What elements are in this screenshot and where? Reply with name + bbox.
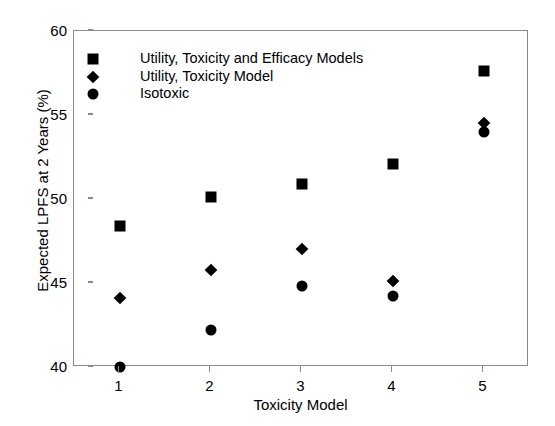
- legend-label: Utility, Toxicity Model: [140, 68, 273, 86]
- y-tick-mark: [88, 29, 93, 31]
- y-tick-mark: [88, 197, 93, 199]
- legend-label: Isotoxic: [140, 85, 189, 103]
- diamond-marker-icon: [86, 68, 100, 86]
- data-point: [478, 66, 489, 77]
- legend-marker: [88, 89, 99, 100]
- y-tick-label: 40: [27, 359, 67, 374]
- x-tick-label: 1: [99, 378, 139, 393]
- data-point: [113, 292, 126, 305]
- x-tick-label: 3: [281, 378, 321, 393]
- legend-label: Utility, Toxicity and Efficacy Models: [140, 50, 363, 68]
- x-tick-label: 5: [463, 378, 503, 393]
- y-tick-mark: [88, 365, 93, 367]
- x-tick-mark: [118, 366, 120, 372]
- data-point: [387, 158, 398, 169]
- y-axis-title: Expected LPFS at 2 Years (%): [34, 61, 51, 321]
- legend-entry: Utility, Toxicity Model: [86, 68, 416, 86]
- scatter-chart-figure: 4045505560 12345 Expected LPFS at 2 Year…: [0, 0, 555, 426]
- x-tick-mark: [209, 366, 211, 372]
- data-point: [296, 178, 307, 189]
- data-point: [295, 243, 308, 256]
- data-point: [205, 325, 216, 336]
- data-point: [387, 291, 398, 302]
- data-point: [296, 281, 307, 292]
- data-point: [204, 263, 217, 276]
- x-axis-title: Toxicity Model: [73, 396, 528, 413]
- circle-marker-icon: [86, 85, 100, 103]
- data-point: [114, 220, 125, 231]
- square-marker-icon: [86, 50, 100, 68]
- x-tick-mark: [482, 366, 484, 372]
- legend-marker: [88, 54, 99, 65]
- data-point: [205, 192, 216, 203]
- y-tick-mark: [88, 113, 93, 115]
- x-tick-mark: [300, 366, 302, 372]
- y-tick-label: 60: [27, 23, 67, 38]
- data-point: [478, 126, 489, 137]
- x-tick-label: 4: [372, 378, 412, 393]
- data-point: [386, 275, 399, 288]
- x-tick-mark: [391, 366, 393, 372]
- y-tick-mark: [88, 281, 93, 283]
- legend-entry: Isotoxic: [86, 85, 416, 103]
- chart-legend: Utility, Toxicity and Efficacy ModelsUti…: [86, 50, 416, 103]
- legend-entry: Utility, Toxicity and Efficacy Models: [86, 50, 416, 68]
- legend-marker: [87, 70, 100, 83]
- x-tick-label: 2: [190, 378, 230, 393]
- data-point: [114, 362, 125, 373]
